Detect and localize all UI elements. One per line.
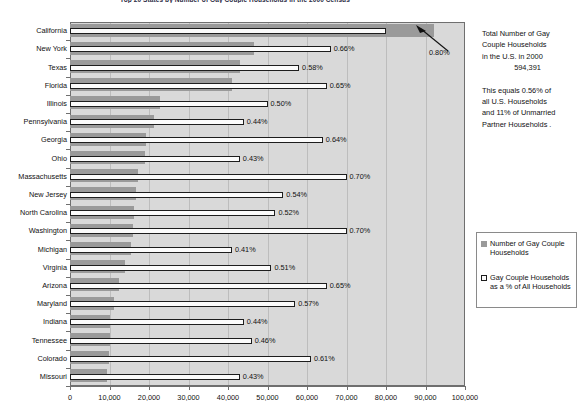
legend-label-pct: Gay Couple Households as a % of All Hous… (490, 273, 576, 292)
x-axis-tick (110, 386, 111, 390)
bar-percent-label: 0.41% (235, 246, 256, 254)
bar-percent-label: 0.50% (271, 100, 292, 108)
annotation-total: 594,391 (482, 62, 581, 73)
category-label: Georgia (0, 136, 67, 144)
plot-area (70, 22, 465, 386)
category-label: Washington (0, 227, 67, 235)
bar-percent (70, 247, 232, 253)
category-label: Colorado (0, 355, 67, 363)
bar-percent-label: 0.43% (243, 373, 264, 381)
bar-percent-label: 0.70% (350, 173, 371, 181)
x-axis-tick (228, 386, 229, 390)
x-axis-tick-label: 20,000 (138, 393, 160, 402)
x-axis-tick (386, 386, 387, 390)
x-axis-tick-label: 60,000 (296, 393, 318, 402)
bar-percent (70, 374, 240, 380)
x-axis-tick (347, 386, 348, 390)
bar-percent (70, 46, 331, 52)
bar-percent-label: 0.58% (302, 64, 323, 72)
category-label: Illinois (0, 100, 67, 108)
category-label: New York (0, 45, 67, 53)
bar-percent (70, 338, 252, 344)
category-label: Ohio (0, 155, 67, 163)
x-axis-tick-label: 90,000 (414, 393, 436, 402)
bar-percent (70, 174, 347, 180)
bar-percent-label: 0.70% (350, 227, 371, 235)
bar-percent-label: 0.44% (247, 118, 268, 126)
x-axis-tick-label: 50,000 (256, 393, 278, 402)
category-label: Pennsylvania (0, 118, 67, 126)
category-label: Arizona (0, 282, 67, 290)
x-axis-tick (307, 386, 308, 390)
category-label: Missouri (0, 373, 67, 381)
legend-swatch-count-icon (481, 241, 487, 247)
bar-percent (70, 156, 240, 162)
category-label: Tennessee (0, 337, 67, 345)
annotation-line-2: Couple Households (482, 40, 547, 49)
bar-percent (70, 83, 327, 89)
bar-percent-label: 0.46% (255, 337, 276, 345)
bar-percent (70, 228, 347, 234)
gridline (307, 23, 308, 385)
category-label: Florida (0, 82, 67, 90)
bar-percent (70, 265, 271, 271)
x-axis-tick-label: 10,000 (98, 393, 120, 402)
category-label: Massachusetts (0, 173, 67, 181)
category-label: New Jersey (0, 191, 67, 199)
legend-entry-count: Number of Gay Couple Households (481, 239, 576, 258)
bar-percent (70, 283, 327, 289)
bar-percent (70, 192, 283, 198)
x-axis-tick-label: 100,000 (452, 393, 478, 402)
x-axis-tick (465, 386, 466, 390)
legend-swatch-pct-icon (481, 275, 487, 281)
category-label: Virginia (0, 264, 67, 272)
x-axis-tick-label: 40,000 (217, 393, 239, 402)
bar-percent (70, 137, 323, 143)
bar-percent-label: 0.65% (330, 82, 351, 90)
bar-percent (70, 301, 295, 307)
legend-label-count: Number of Gay Couple Households (490, 239, 576, 258)
category-label: Maryland (0, 300, 67, 308)
bar-percent-label: 0.54% (286, 191, 307, 199)
gridline (426, 23, 427, 385)
bar-percent-label: 0.64% (326, 136, 347, 144)
annotation-line-7: Partner Households . (482, 120, 551, 129)
annotation-line-5: all U.S. Households (482, 97, 547, 106)
bar-percent-label: 0.65% (330, 282, 351, 290)
x-axis-tick-label: 80,000 (375, 393, 397, 402)
x-axis-tick (426, 386, 427, 390)
chart-container: Top 20 States by Number of Gay Couple Ho… (0, 0, 581, 411)
category-label: Texas (0, 64, 67, 72)
legend-entry-pct: Gay Couple Households as a % of All Hous… (481, 273, 576, 292)
gridline (347, 23, 348, 385)
bar-percent-label: 0.51% (274, 264, 295, 272)
bar-percent-label: 0.52% (278, 209, 299, 217)
annotation-line-3: in the U.S. in 2000 (482, 52, 543, 61)
gridline (268, 23, 269, 385)
chart-title: Top 20 States by Number of Gay Couple Ho… (0, 0, 470, 3)
bar-percent (70, 319, 244, 325)
x-axis-tick (268, 386, 269, 390)
x-axis-tick (189, 386, 190, 390)
gridline (386, 23, 387, 385)
bar-percent (70, 101, 268, 107)
bar-percent-label: 0.43% (243, 155, 264, 163)
bar-percent (70, 119, 244, 125)
x-axis-tick-label: 70,000 (335, 393, 357, 402)
annotation-line-1: Total Number of Gay (482, 29, 550, 38)
bar-percent-label: 0.66% (334, 45, 355, 53)
x-axis-tick-label: 30,000 (177, 393, 199, 402)
category-label: California (0, 27, 67, 35)
bar-percent-label: 0.61% (314, 355, 335, 363)
x-axis-tick (70, 386, 71, 390)
summary-annotation: Total Number of Gay Couple Households in… (482, 28, 581, 130)
bar-percent (70, 210, 275, 216)
category-label: Michigan (0, 246, 67, 254)
california-callout-label: 0.80% (429, 48, 450, 57)
x-axis-tick-label: 0 (68, 393, 72, 402)
category-label: North Carolina (0, 209, 67, 217)
annotation-line-6: and 11% of Unmarried (482, 108, 555, 117)
bar-percent (70, 356, 311, 362)
bar-percent-label: 0.44% (247, 318, 268, 326)
bar-percent (70, 28, 386, 34)
